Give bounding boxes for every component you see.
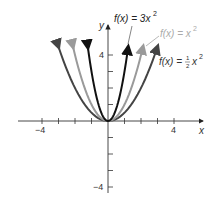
- y-tick-label-neg4: −4: [93, 182, 103, 192]
- svg-text:2: 2: [186, 63, 190, 69]
- chart-svg: y x −4 4 4 −4 f(x) = 3x 2 f(x) = x 2 f(x…: [0, 0, 221, 211]
- svg-text:1: 1: [186, 55, 190, 61]
- label-half-x2: f(x) = 1 2 x 2: [159, 53, 203, 69]
- svg-text:f(x) =: f(x) =: [159, 56, 182, 67]
- svg-text:f(x) = 3x: f(x) = 3x: [114, 13, 151, 24]
- label-x2: f(x) = x 2: [160, 25, 197, 39]
- parabola-chart: y x −4 4 4 −4 f(x) = 3x 2 f(x) = x 2 f(x…: [0, 0, 221, 211]
- x-tick-label-neg4: −4: [35, 125, 45, 135]
- y-axis-label: y: [98, 20, 105, 31]
- svg-text:x: x: [191, 56, 198, 67]
- label-3x2: f(x) = 3x 2: [114, 10, 157, 24]
- x-axis-label: x: [198, 125, 205, 136]
- leader-3x2: [128, 26, 132, 44]
- svg-text:f(x) = x: f(x) = x: [160, 28, 192, 39]
- x-tick-label-4: 4: [171, 125, 176, 135]
- svg-text:2: 2: [193, 25, 197, 32]
- svg-text:2: 2: [153, 10, 157, 17]
- leader-x2: [146, 36, 159, 46]
- svg-text:2: 2: [199, 53, 203, 60]
- y-tick-label-4: 4: [99, 50, 104, 60]
